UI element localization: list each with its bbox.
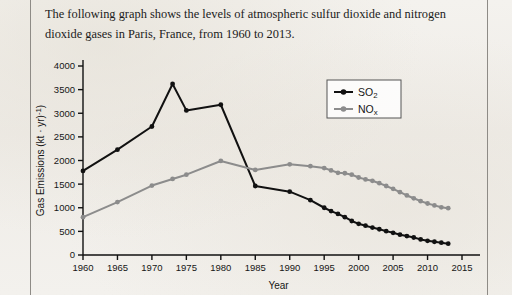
data-point [150,124,155,129]
x-tick-label: 1975 [176,262,197,273]
data-point [342,171,347,176]
data-point [81,168,86,173]
y-axis-title-exponent: -1 [34,108,43,115]
y-tick-label: 2000 [54,155,75,166]
data-point [308,164,313,169]
data-point [287,162,292,167]
line-chart: 0500100015002000250030003500400019601965… [30,52,487,295]
y-tick-label: 4000 [54,60,75,71]
data-point [349,172,354,177]
data-point [432,203,437,208]
data-point [115,200,120,205]
x-tick-label: 1990 [279,262,300,273]
data-point [253,184,258,189]
data-point [150,183,155,188]
data-point [425,238,430,243]
data-point [349,219,354,224]
y-tick-label: 3000 [54,108,75,119]
data-point [329,209,334,214]
legend-label-subscript: x [374,108,378,117]
data-point [342,215,347,220]
data-point [404,193,409,198]
data-point [115,147,120,152]
y-tick-label: 2500 [54,131,75,142]
data-point [377,227,382,232]
data-point [384,229,389,234]
data-point [170,177,175,182]
y-tick-label: 500 [59,226,75,237]
data-point [308,198,313,203]
data-point [404,234,409,239]
data-point [446,206,451,211]
data-point [184,108,189,113]
y-tick-label: 0 [70,249,75,260]
data-point [218,102,223,107]
x-tick-label: 1980 [210,262,231,273]
x-tick-label: 1965 [107,262,128,273]
data-point [370,225,375,230]
x-tick-label: 2000 [348,262,369,273]
x-tick-label: 1995 [314,262,335,273]
data-point [391,230,396,235]
data-point [439,205,444,210]
x-tick-label: 1985 [245,262,266,273]
y-tick-label: 1000 [54,202,75,213]
x-tick-label: 2005 [383,262,404,273]
data-point [287,189,292,194]
data-point [253,168,258,173]
axes: 0500100015002000250030003500400019601965… [54,60,480,273]
data-point [432,239,437,244]
data-point [336,170,341,175]
data-point [218,159,223,164]
x-tick-label: 1960 [72,262,93,273]
legend-swatch-marker [341,106,347,112]
data-point [322,205,327,210]
data-point [439,240,444,245]
figure-caption: The following graph shows the levels of … [45,4,465,44]
data-point [81,215,86,220]
x-tick-label: 2010 [417,262,438,273]
data-point [411,235,416,240]
data-point [322,166,327,171]
x-tick-label: 1970 [141,262,162,273]
data-point [356,221,361,226]
data-point [411,196,416,201]
data-point [356,175,361,180]
series-nox [81,159,451,220]
data-point [377,181,382,186]
data-point [184,172,189,177]
chart-legend: SO2NOx [327,80,401,118]
data-point [446,241,451,246]
data-point [370,178,375,183]
caption-line-1: The following graph shows the levels of … [45,4,465,24]
data-point [425,201,430,206]
data-point [363,177,368,182]
y-tick-label: 3500 [54,84,75,95]
data-point [329,168,334,173]
data-point [398,232,403,237]
data-point [418,199,423,204]
y-tick-label: 1500 [54,179,75,190]
data-point [363,223,368,228]
data-point [170,82,175,87]
legend-label-subscript: 2 [373,91,377,100]
data-point [391,186,396,191]
data-point [384,184,389,189]
y-axis-title: Gas Emissions (kt · yr)-1) [34,105,46,216]
page-rule-right [487,0,488,295]
data-point [398,190,403,195]
data-point [418,237,423,242]
x-axis-title: Year [268,280,289,291]
x-tick-label: 2015 [451,262,472,273]
chart-figure: 0500100015002000250030003500400019601965… [30,52,487,295]
data-point [336,211,341,216]
caption-line-2: dioxide gases in Paris, France, from 196… [45,24,465,44]
y-axis-title-paren: ) [35,105,46,108]
legend-swatch-marker [341,89,347,95]
